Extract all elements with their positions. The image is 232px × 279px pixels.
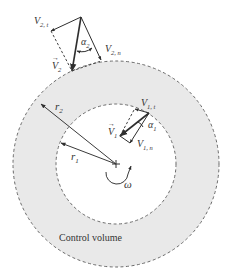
- v2-vector-overarrow: →: [52, 54, 59, 62]
- alpha2-angle-arc: [77, 48, 92, 52]
- v2t-label: V2, t: [34, 15, 49, 28]
- omega-label: ω: [124, 178, 132, 190]
- v2t-vector-arrow: [51, 17, 81, 31]
- control-volume-diagram: r2 r1 ω V1, t α1 V1, n V1 → V2, t α2: [0, 0, 232, 279]
- outlet-velocity-triangle: [51, 17, 101, 71]
- v1-vector-overarrow: →: [108, 120, 115, 128]
- control-volume-label: Control volume: [59, 232, 123, 243]
- v2n-label: V2, n: [105, 43, 121, 56]
- alpha2-label: α2: [81, 36, 90, 49]
- v2-vector-arrow: [72, 17, 81, 71]
